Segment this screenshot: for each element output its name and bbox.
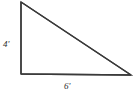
right-triangle-figure: 4' 6' <box>0 0 137 96</box>
vertical-leg-dimension-label: 4' <box>3 40 9 49</box>
horizontal-leg-dimension-label: 6' <box>64 82 70 91</box>
horizontal-leg-line <box>21 74 131 75</box>
